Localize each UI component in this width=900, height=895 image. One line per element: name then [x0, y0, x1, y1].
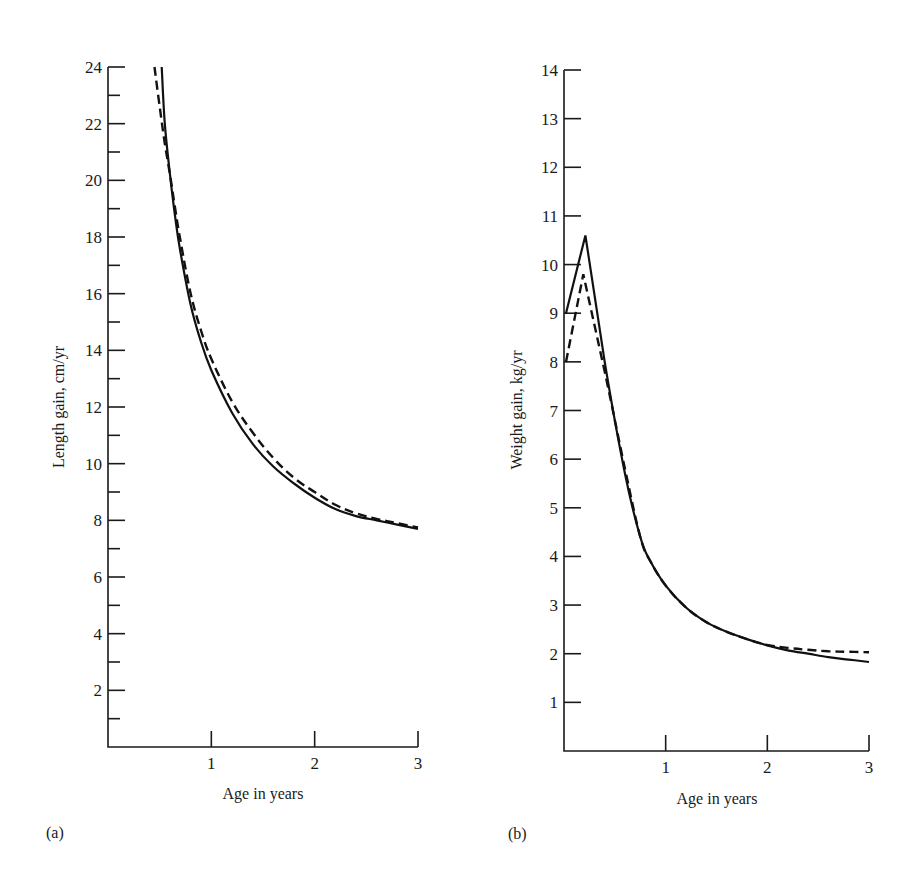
y-tick-label: 6: [94, 568, 103, 587]
y-tick-label: 14: [85, 341, 103, 360]
y-tick-label: 3: [550, 596, 559, 615]
y-tick-label: 20: [85, 171, 102, 190]
y-tick-label: 2: [550, 645, 559, 664]
series-line-dashed: [566, 274, 869, 652]
series-b: [566, 235, 869, 662]
y-tick-label: 6: [550, 450, 559, 469]
y-tick-label: 24: [85, 58, 103, 77]
axes-b: [564, 70, 869, 751]
y-tick-label: 16: [85, 285, 102, 304]
y-tick-label: 5: [550, 499, 559, 518]
y-axis-title-a: Length gain, cm/yr: [50, 345, 68, 468]
y-tick-label: 12: [85, 398, 102, 417]
y-tick-label: 11: [542, 207, 558, 226]
y-tick-label: 18: [85, 228, 102, 247]
x-tick-label: 3: [414, 754, 423, 773]
series-line-dashed: [155, 67, 419, 527]
y-tick-label: 10: [541, 256, 558, 275]
x-tick-label: 1: [661, 758, 670, 777]
y-tick-label: 9: [550, 304, 559, 323]
y-tick-label: 8: [550, 353, 559, 372]
y-axis-title-b: Weight gain, kg/yr: [508, 350, 526, 470]
chart-length-gain: 24681012141618202224123 Age in years Len…: [46, 58, 422, 842]
axis-lines: [108, 67, 418, 747]
axes-a: [108, 67, 418, 747]
y-tick-label: 22: [85, 115, 102, 134]
axis-lines: [564, 70, 869, 751]
x-tick-label: 1: [207, 754, 216, 773]
y-tick-label: 12: [541, 158, 558, 177]
series-line-solid: [566, 235, 869, 662]
panel-label-b: (b): [508, 825, 527, 843]
y-tick-label: 10: [85, 455, 102, 474]
figure-canvas: 24681012141618202224123 Age in years Len…: [0, 0, 900, 895]
x-tick-label: 2: [763, 758, 772, 777]
y-tick-label: 7: [550, 402, 559, 421]
series-line-solid: [162, 67, 418, 529]
ticks-b: 1234567891011121314123: [541, 61, 873, 777]
y-tick-label: 4: [550, 547, 559, 566]
x-tick-label: 3: [865, 758, 874, 777]
panel-label-a: (a): [46, 824, 64, 842]
y-tick-label: 1: [550, 693, 559, 712]
y-tick-label: 13: [541, 110, 558, 129]
y-tick-label: 14: [541, 61, 559, 80]
y-tick-label: 2: [94, 681, 103, 700]
y-tick-label: 8: [94, 511, 103, 530]
chart-weight-gain: 1234567891011121314123 Age in years Weig…: [508, 61, 873, 843]
series-a: [155, 67, 419, 529]
x-tick-label: 2: [310, 754, 319, 773]
x-axis-title-a: Age in years: [223, 785, 304, 803]
x-axis-title-b: Age in years: [677, 790, 758, 808]
ticks-a: 24681012141618202224123: [85, 58, 422, 773]
y-tick-label: 4: [94, 625, 103, 644]
